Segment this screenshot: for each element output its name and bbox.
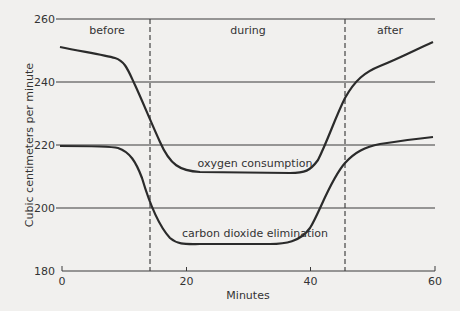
ytick-260: 260 — [34, 13, 55, 26]
xtick-20: 20 — [180, 275, 194, 288]
series-label-oxygen: oxygen consumption — [198, 157, 313, 170]
oxygen-consumption-line — [60, 42, 433, 173]
x-axis-title: Minutes — [226, 289, 270, 302]
ytick-200: 200 — [34, 202, 55, 215]
xtick-0: 0 — [59, 275, 66, 288]
y-tick-labels: 260 240 220 200 180 — [34, 13, 55, 278]
ytick-180: 180 — [34, 265, 55, 278]
y-axis-title: Cubic centimeters per minute — [23, 63, 36, 228]
ytick-240: 240 — [34, 76, 55, 89]
x-tick-labels: 0 20 40 60 — [59, 275, 443, 288]
xtick-60: 60 — [428, 275, 442, 288]
phase-label-during: during — [230, 24, 266, 37]
series-label-co2: carbon dioxide elimination — [182, 227, 328, 240]
phase-label-after: after — [377, 24, 404, 37]
phase-label-before: before — [89, 24, 125, 37]
ytick-220: 220 — [34, 139, 55, 152]
chart: before during after oxygen consumption c… — [0, 0, 460, 311]
xtick-40: 40 — [304, 275, 318, 288]
